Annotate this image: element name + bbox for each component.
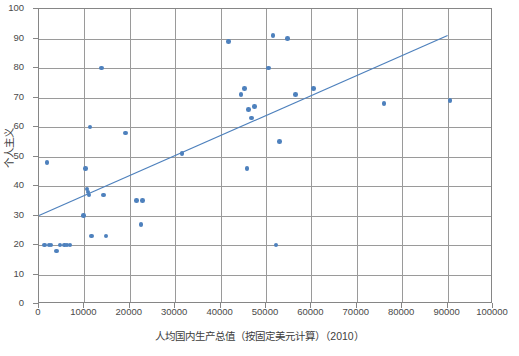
data-point	[293, 92, 298, 97]
x-tick-label: 80000	[388, 307, 414, 317]
y-tick-mark	[33, 126, 38, 127]
x-tick-mark	[129, 303, 130, 308]
y-tick-mark	[33, 97, 38, 98]
y-tick-label: 80	[0, 62, 24, 72]
data-point	[242, 86, 247, 91]
data-point	[271, 33, 276, 38]
x-tick-label: 90000	[433, 307, 459, 317]
x-tick-label: 70000	[343, 307, 369, 317]
x-tick-mark	[83, 303, 84, 308]
y-tick-mark	[33, 38, 38, 39]
x-tick-label: 0	[35, 307, 40, 317]
data-point	[140, 198, 145, 203]
data-point	[226, 39, 231, 44]
data-point	[180, 151, 185, 156]
data-point	[277, 139, 282, 144]
x-tick-label: 50000	[252, 307, 278, 317]
data-point	[448, 98, 453, 103]
x-tick-label: 40000	[206, 307, 232, 317]
x-tick-label: 10000	[70, 307, 96, 317]
y-axis-title: 个人主义	[1, 112, 16, 184]
y-tick-label: 0	[0, 298, 24, 308]
x-axis-title: 人均国内生产总值（按固定美元计算）（2010）	[0, 328, 519, 343]
y-tick-label: 70	[0, 92, 24, 102]
y-tick-mark	[33, 215, 38, 216]
y-tick-mark	[33, 244, 38, 245]
scatter-chart: 0102030405060708090100 01000020000300004…	[0, 0, 519, 356]
data-point	[239, 92, 244, 97]
x-tick-label: 30000	[161, 307, 187, 317]
y-tick-label: 90	[0, 33, 24, 43]
y-tick-label: 30	[0, 210, 24, 220]
x-tick-label: 20000	[116, 307, 142, 317]
x-tick-mark	[356, 303, 357, 308]
data-point	[83, 166, 88, 171]
x-tick-mark	[492, 303, 493, 308]
data-point	[54, 249, 59, 254]
x-tick-mark	[447, 303, 448, 308]
data-point	[252, 104, 257, 109]
data-point	[123, 131, 128, 136]
x-tick-mark	[265, 303, 266, 308]
data-point	[134, 198, 139, 203]
data-point	[382, 101, 387, 106]
data-point	[311, 86, 316, 91]
x-tick-mark	[174, 303, 175, 308]
y-tick-label: 10	[0, 269, 24, 279]
y-tick-mark	[33, 156, 38, 157]
trend-line	[39, 9, 491, 302]
data-point	[81, 213, 86, 218]
x-tick-mark	[38, 303, 39, 308]
x-tick-label: 60000	[297, 307, 323, 317]
data-point	[139, 222, 144, 227]
x-tick-mark	[220, 303, 221, 308]
plot-area	[38, 8, 492, 303]
y-tick-label: 20	[0, 239, 24, 249]
x-tick-mark	[401, 303, 402, 308]
data-point	[246, 107, 251, 112]
x-tick-mark	[310, 303, 311, 308]
data-point	[245, 166, 250, 171]
y-tick-mark	[33, 8, 38, 9]
data-point	[266, 66, 271, 71]
data-point	[101, 193, 106, 198]
x-tick-label: 100000	[476, 307, 508, 317]
data-point	[285, 36, 290, 41]
y-tick-mark	[33, 67, 38, 68]
y-tick-mark	[33, 185, 38, 186]
y-tick-mark	[33, 274, 38, 275]
y-tick-label: 100	[0, 3, 24, 13]
